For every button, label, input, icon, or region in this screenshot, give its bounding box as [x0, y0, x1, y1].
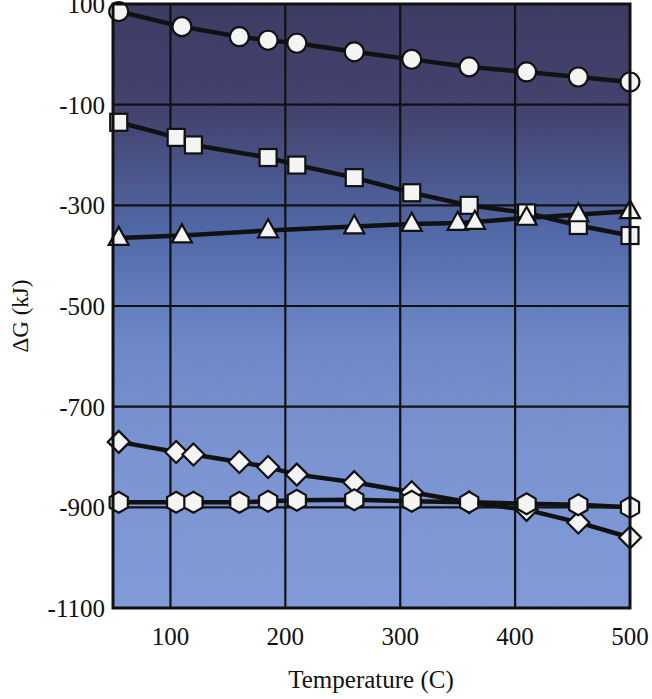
- data-point-square: [346, 169, 363, 186]
- data-point-square: [288, 157, 305, 174]
- data-point-circle: [517, 62, 536, 81]
- chart-canvas: 100-100-300-500-700-900-1100 10020030040…: [0, 0, 652, 699]
- data-point-hexagon: [259, 491, 277, 512]
- data-point-circle: [230, 27, 249, 46]
- data-point-hexagon: [403, 491, 421, 512]
- data-point-hexagon: [345, 489, 363, 510]
- x-tick-label: 300: [381, 623, 419, 650]
- data-point-hexagon: [230, 492, 248, 513]
- x-tick-label: 400: [496, 623, 534, 650]
- data-point-circle: [172, 17, 191, 36]
- data-point-square: [168, 129, 185, 146]
- x-axis-title: Temperature (C): [288, 666, 454, 694]
- data-point-circle: [345, 42, 364, 61]
- data-point-circle: [259, 31, 278, 50]
- data-point-hexagon: [288, 490, 306, 511]
- data-point-hexagon: [460, 492, 478, 513]
- y-axis-tick-labels: 100-100-300-500-700-900-1100: [48, 0, 105, 622]
- y-tick-label: -900: [59, 494, 105, 521]
- data-point-hexagon: [184, 492, 202, 513]
- y-tick-label: 100: [68, 0, 106, 18]
- data-point-square: [403, 184, 420, 201]
- y-tick-label: -100: [59, 92, 105, 119]
- y-axis-title: ΔG (kJ): [8, 280, 33, 353]
- y-tick-label: -700: [59, 394, 105, 421]
- data-point-circle: [569, 67, 588, 86]
- data-point-circle: [287, 34, 306, 53]
- x-tick-label: 500: [611, 623, 649, 650]
- data-point-hexagon: [569, 494, 587, 515]
- x-axis-tick-labels: 100200300400500: [152, 623, 649, 650]
- data-point-square: [260, 149, 277, 166]
- y-tick-label: -300: [59, 192, 105, 219]
- x-tick-label: 200: [267, 623, 305, 650]
- y-tick-label: -500: [59, 293, 105, 320]
- chart-figure: 100-100-300-500-700-900-1100 10020030040…: [0, 0, 652, 699]
- data-point-circle: [402, 50, 421, 69]
- data-point-hexagon: [167, 492, 185, 513]
- data-point-hexagon: [518, 493, 536, 514]
- data-point-square: [185, 136, 202, 153]
- data-point-circle: [460, 57, 479, 76]
- x-tick-label: 100: [152, 623, 190, 650]
- y-tick-label: -1100: [48, 595, 105, 622]
